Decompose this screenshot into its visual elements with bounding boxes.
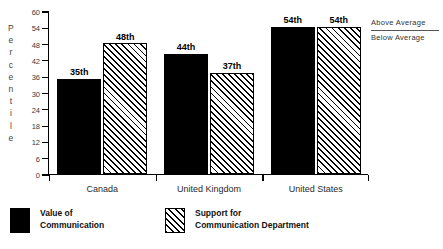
y-axis-tick (42, 126, 49, 127)
chart-page: P e r c e n t i l e 06121824303642485460… (0, 0, 443, 249)
y-axis-tick-label: 36 (32, 73, 40, 82)
legend-label-value-of-communication: Value of Communication (40, 208, 104, 231)
y-axis-tick-label: 0 (36, 171, 40, 180)
bar-value-label: 48th (116, 32, 135, 42)
y-axis-tick (42, 158, 49, 159)
y-axis-tick-label: 12 (32, 138, 40, 147)
y-axis-tick-label: 30 (32, 89, 40, 98)
x-axis-category-label: United States (289, 184, 343, 194)
bar-value-canada (57, 79, 101, 174)
bar-value-united-kingdom (164, 54, 208, 174)
plot-area: 06121824303642485460 35th48th44th37th54t… (48, 12, 368, 175)
y-axis-tick-label: 42 (32, 56, 40, 65)
y-axis-tick-label: 24 (32, 105, 40, 114)
x-axis-tick (156, 175, 157, 181)
average-annotation: Above Average Below Average (371, 18, 441, 42)
y-axis-tick (42, 11, 49, 12)
below-average-label: Below Average (371, 33, 441, 42)
y-axis-tick-label: 6 (36, 154, 40, 163)
bar-support-canada (103, 43, 147, 173)
legend-label-line: Communication (40, 220, 104, 232)
y-axis-tick-label: 60 (32, 8, 40, 17)
average-divider-line (371, 30, 439, 31)
y-axis-tick (42, 44, 49, 45)
y-axis-title-letter: e (2, 71, 20, 83)
legend-swatch-hatch-icon (165, 208, 185, 233)
y-axis-tick-label: 48 (32, 40, 40, 49)
y-axis-tick (42, 142, 49, 143)
legend-label-line: Communication Department (195, 220, 309, 232)
y-axis-title-letter: e (2, 132, 20, 144)
x-axis-category-label: Canada (87, 184, 119, 194)
y-axis-title-letter: c (2, 59, 20, 71)
y-axis-title: P e r c e n t i l e (2, 22, 20, 144)
y-axis-tick (42, 60, 49, 61)
bar-value-label: 54th (283, 15, 302, 25)
y-axis-title-letter: t (2, 95, 20, 107)
bar-value-label: 35th (70, 67, 89, 77)
y-axis-tick (42, 174, 49, 175)
x-axis-line (48, 174, 368, 175)
above-average-label: Above Average (371, 18, 441, 27)
legend-label-line: Value of (40, 208, 104, 220)
bar-value-label: 44th (177, 42, 196, 52)
x-axis-tick (368, 175, 369, 181)
y-axis-title-letter: n (2, 83, 20, 95)
bar-series-group: 35th48th44th37th54th54th (49, 12, 368, 174)
y-axis-title-letter: i (2, 107, 20, 119)
y-axis-tick (42, 77, 49, 78)
bar-support-united-states (317, 27, 361, 174)
legend-label-line: Support for (195, 208, 309, 220)
bar-value-label: 54th (329, 15, 348, 25)
legend-swatch-solid-icon (10, 208, 30, 233)
y-axis-title-letter: l (2, 120, 20, 132)
y-axis-title-letter: P (2, 22, 20, 34)
y-axis-tick (42, 109, 49, 110)
y-axis-tick (42, 93, 49, 94)
y-axis-title-letter: e (2, 34, 20, 46)
bar-support-united-kingdom (210, 73, 254, 174)
y-axis-tick-label: 18 (32, 122, 40, 131)
bar-value-label: 37th (223, 61, 242, 71)
y-axis-tick (42, 28, 49, 29)
x-axis-tick (49, 175, 50, 181)
x-axis-tick (262, 175, 263, 181)
chart-legend: Value of Communication Support for Commu… (0, 205, 443, 249)
y-axis-tick-label: 54 (32, 24, 40, 33)
y-axis-title-letter: r (2, 46, 20, 58)
x-axis-category-label: United Kingdom (177, 184, 241, 194)
legend-label-support-for-communication-department: Support for Communication Department (195, 208, 309, 231)
bar-value-united-states (271, 27, 315, 174)
